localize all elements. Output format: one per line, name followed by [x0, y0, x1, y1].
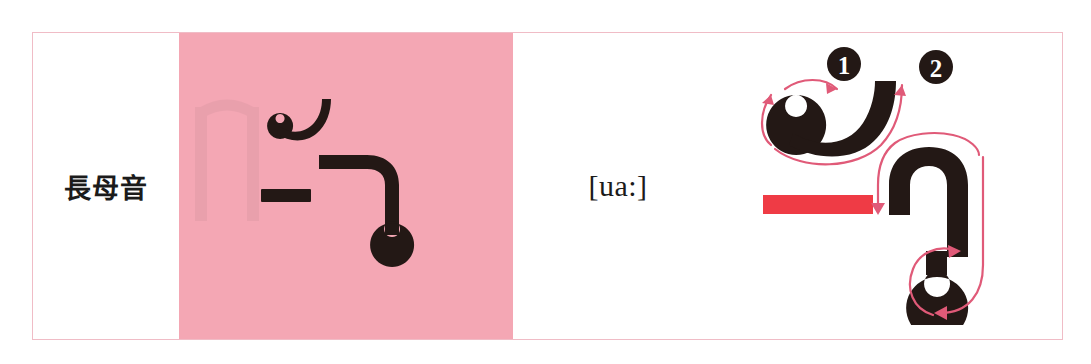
glyph-artwork	[179, 33, 513, 339]
stroke-2-shape	[889, 147, 968, 325]
stroke-1-number-badge: 1	[827, 47, 861, 81]
stroke-2-number-badge: 2	[919, 50, 953, 84]
cell-ipa-transcription: [ua:]	[513, 33, 723, 339]
glyph-dash-mark	[261, 189, 311, 202]
cell-category-label: 長母音	[33, 33, 179, 339]
glyph-hook-body	[319, 155, 414, 267]
stroke-2-number: 2	[930, 55, 943, 82]
page-root: 長母音	[0, 0, 1091, 364]
ipa-text: [ua:]	[588, 169, 647, 203]
burmese-glyph-ua-long	[257, 85, 437, 285]
glyph-upper-loop-diacritic	[267, 99, 331, 140]
stroke-1-shape	[766, 81, 896, 157]
stroke-order-artwork: 1	[723, 33, 1062, 339]
stroke-1-number: 1	[838, 52, 851, 79]
category-label-text: 長母音	[64, 167, 148, 206]
red-underbar-mark	[763, 195, 873, 214]
cell-glyph-highlight	[179, 33, 513, 339]
stroke-order-diagram: 1	[741, 45, 1041, 325]
cell-stroke-order: 1	[723, 33, 1062, 339]
glyph-table: 長母音	[32, 32, 1063, 340]
